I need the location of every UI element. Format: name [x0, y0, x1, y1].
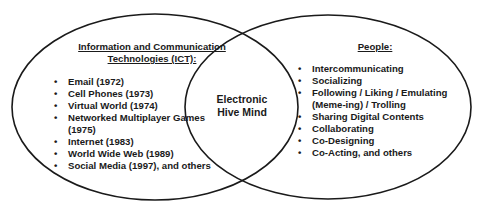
ict-item: Social Media (1997), and others: [52, 160, 211, 172]
ict-item: World Wide Web (1989): [52, 148, 211, 160]
ict-heading: Information and Communication Technologi…: [62, 41, 242, 65]
people-item: Sharing Digital Contents: [296, 111, 447, 123]
people-item: Collaborating: [296, 123, 447, 135]
ict-item: Virtual World (1974): [52, 100, 211, 112]
ict-heading-line2: Technologies (ICT):: [62, 53, 242, 65]
ict-item: Networked Multiplayer Games: [52, 112, 211, 124]
people-item: Co-Designing: [296, 135, 447, 147]
ict-item: Cell Phones (1973): [52, 88, 211, 100]
intersection-line1: Electronic: [209, 93, 275, 106]
ict-list: Email (1972) Cell Phones (1973) Virtual …: [52, 76, 211, 172]
people-item: Following / Liking / Emulating: [296, 87, 447, 99]
people-item-continuation: (Meme-ing) / Trolling: [296, 99, 447, 111]
intersection-label: Electronic Hive Mind: [209, 93, 275, 119]
people-item: Socializing: [296, 75, 447, 87]
ict-heading-line1: Information and Communication: [62, 41, 242, 53]
intersection-line2: Hive Mind: [209, 106, 275, 119]
people-item: Intercommunicating: [296, 63, 447, 75]
people-list: Intercommunicating Socializing Following…: [296, 63, 447, 159]
people-item: Co-Acting, and others: [296, 147, 447, 159]
ict-item-continuation: (1975): [52, 124, 211, 136]
ict-item: Internet (1983): [52, 136, 211, 148]
ict-item: Email (1972): [52, 76, 211, 88]
people-heading: People:: [340, 41, 410, 53]
